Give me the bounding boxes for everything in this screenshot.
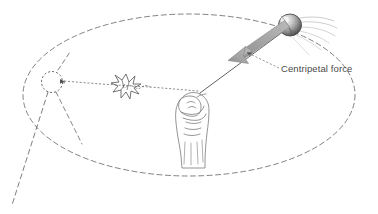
hand-fist — [176, 93, 209, 169]
impact-starburst — [111, 74, 141, 99]
circular-path-ellipse — [23, 14, 355, 176]
centripetal-force-arrow — [228, 21, 290, 64]
target-circle — [42, 72, 66, 93]
figure-canvas: Centripetal force — [0, 0, 378, 214]
tangent-travel-dotted-line — [64, 81, 198, 91]
centripetal-force-label: Centripetal force — [281, 63, 352, 74]
centripetal-force-figure: Centripetal force — [0, 0, 378, 214]
release-trajectory-dashed-line — [12, 52, 82, 205]
